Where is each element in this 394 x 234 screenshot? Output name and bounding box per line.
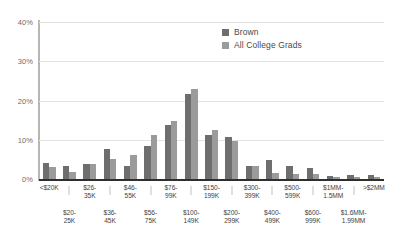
bar-all-college-grads (333, 177, 339, 179)
bar-group (120, 22, 140, 179)
x-axis-labels: <$20K$26-35K$46-55K$76-99K$150-199K$300-… (39, 182, 384, 234)
bar-group (303, 22, 323, 179)
bar-group (80, 22, 100, 179)
x-axis-tick-label: $76-99K (154, 184, 188, 200)
bar-all-college-grads (212, 130, 218, 179)
x-axis-tick-label: <$20K (32, 184, 66, 192)
legend-label: Brown (234, 27, 259, 37)
income-distribution-bar-chart: 40%30%20%10%0% BrownAll College Grads <$… (0, 0, 394, 234)
x-axis-tick-label: $1.6MM-1.99MM (337, 209, 371, 225)
bar-all-college-grads (191, 89, 197, 179)
y-axis-tick-label: 0% (22, 175, 33, 184)
legend-swatch-icon (222, 42, 229, 49)
y-axis-tick-label: 20% (18, 96, 33, 105)
x-axis-tick-label: $20-25K (52, 209, 86, 225)
x-axis-separator (312, 186, 313, 195)
bar-group (181, 22, 201, 179)
bar-group (364, 22, 384, 179)
x-axis-separator (353, 186, 354, 195)
bar-group (343, 22, 363, 179)
x-axis-tick-label: $300-399K (235, 184, 269, 200)
x-axis-tick-label: >$2MM (357, 184, 391, 192)
y-axis-tick-label: 30% (18, 57, 33, 66)
y-axis-labels: 40%30%20%10%0% (0, 0, 36, 234)
bar-group (140, 22, 160, 179)
x-axis-tick-label: $200-299K (215, 209, 249, 225)
bar-group (39, 22, 59, 179)
y-axis-tick-label: 40% (18, 18, 33, 27)
x-axis-separator (191, 186, 192, 195)
bar-all-college-grads (374, 177, 380, 179)
axis-baseline (39, 179, 384, 181)
x-axis-separator (110, 186, 111, 195)
legend-swatch-icon (222, 29, 229, 36)
bar-group (201, 22, 221, 179)
bar-group (100, 22, 120, 179)
bar-all-college-grads (313, 174, 319, 179)
bar-all-college-grads (110, 159, 116, 179)
legend-label: All College Grads (234, 40, 302, 50)
bar-all-college-grads (171, 121, 177, 179)
bar-all-college-grads (272, 173, 278, 179)
bar-group (161, 22, 181, 179)
bar-all-college-grads (90, 164, 96, 179)
x-axis-separator (69, 186, 70, 195)
x-axis-tick-label: $56-75K (134, 209, 168, 225)
x-axis-tick-label: $150-199K (195, 184, 229, 200)
y-axis-tick-label: 10% (18, 135, 33, 144)
x-axis-tick-label: $46-55K (113, 184, 147, 200)
plot-area (39, 22, 384, 179)
bar-all-college-grads (293, 174, 299, 179)
x-axis-separator (272, 186, 273, 195)
bar-all-college-grads (232, 141, 238, 179)
bar-all-college-grads (49, 167, 55, 179)
x-axis-separator (231, 186, 232, 195)
chart-legend: BrownAll College Grads (222, 27, 302, 50)
x-axis-tick-label: $500-599K (276, 184, 310, 200)
x-axis-tick-label: $400-499K (255, 209, 289, 225)
legend-item[interactable]: All College Grads (222, 40, 302, 50)
x-axis-tick-label: $26-35K (73, 184, 107, 200)
bar-all-college-grads (69, 172, 75, 179)
bar-all-college-grads (151, 135, 157, 179)
bar-group (59, 22, 79, 179)
x-axis-tick-label: $100-149K (174, 209, 208, 225)
x-axis-tick-label: $600-999K (296, 209, 330, 225)
x-axis-tick-label: $36-45K (93, 209, 127, 225)
x-axis-separator (150, 186, 151, 195)
bar-all-college-grads (252, 166, 258, 179)
bar-all-college-grads (354, 177, 360, 179)
x-axis-tick-label: $1MM-1.5MM (316, 184, 350, 200)
bar-group (323, 22, 343, 179)
bar-groups (39, 22, 384, 179)
bar-all-college-grads (130, 155, 136, 179)
legend-item[interactable]: Brown (222, 27, 302, 37)
